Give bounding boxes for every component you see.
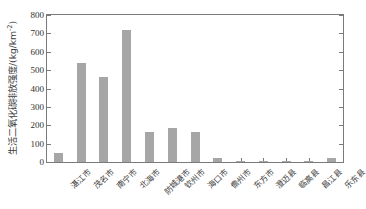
y-axis-tick-mark (47, 125, 51, 126)
bar (191, 132, 200, 162)
y-axis-tick-mark (47, 162, 51, 163)
bar (327, 158, 336, 162)
y-axis-tick-mark (339, 52, 343, 53)
y-axis-title-text: 生活二氧化碳排放强度/(kg/km-2) (5, 21, 19, 155)
bar (259, 161, 268, 162)
x-axis-tick-label: 乐东县 (342, 166, 366, 191)
y-axis-tick-mark (47, 70, 51, 71)
y-axis-tick-label: 800 (31, 10, 45, 20)
y-axis-tick-mark (47, 52, 51, 53)
y-axis-tick-mark (339, 125, 343, 126)
y-axis-tick-label: 500 (31, 65, 45, 75)
y-axis-tick-mark (339, 107, 343, 108)
bar (145, 132, 154, 162)
y-axis-title-superscript: -2 (6, 24, 14, 30)
y-axis-tick-label: 100 (31, 139, 45, 149)
y-axis-tick-mark (339, 33, 343, 34)
y-axis-tick-mark (339, 89, 343, 90)
y-axis-title: 生活二氧化碳排放强度/(kg/km-2) (0, 0, 24, 175)
x-axis-tick-label: 临高县 (296, 166, 321, 191)
bar (282, 161, 291, 162)
bar (77, 63, 86, 162)
y-axis-tick-mark (339, 162, 343, 163)
x-axis-tick-label: 澄迈县 (273, 166, 298, 191)
y-axis-tick-mark (47, 144, 51, 145)
y-axis-title-main: 生活二氧化碳排放强度/(kg/km (7, 30, 18, 154)
y-axis-tick-mark (339, 70, 343, 71)
y-axis-tick-mark (47, 15, 51, 16)
bar (99, 77, 108, 162)
bar (236, 161, 245, 162)
y-axis-tick-label: 300 (31, 102, 45, 112)
bar (168, 128, 177, 162)
bar (304, 161, 313, 162)
x-axis-tick-label: 南宁市 (114, 166, 139, 191)
bar (213, 158, 222, 162)
x-axis-labels: 湛江市茂名市南宁市北海市防城港市钦州市海口市儋州市东方市澄迈县临高县昌江县乐东县 (46, 164, 344, 209)
x-axis-tick-label: 海口市 (205, 166, 230, 191)
bar (122, 30, 131, 162)
y-axis-tick-label: 0 (40, 157, 45, 167)
y-axis-tick-mark (47, 89, 51, 90)
bar (54, 153, 63, 162)
x-axis-tick-label: 茂名市 (91, 166, 116, 191)
y-axis-tick-label: 600 (31, 47, 45, 57)
x-axis-tick-label: 东方市 (251, 166, 276, 191)
y-axis-tick-label: 700 (31, 28, 45, 38)
y-axis-tick-label: 400 (31, 84, 45, 94)
x-axis-tick-label: 北海市 (137, 166, 162, 191)
y-axis-tick-mark (47, 33, 51, 34)
y-axis-tick-mark (47, 107, 51, 108)
x-axis-tick-label: 儋州市 (228, 166, 253, 191)
y-axis-tick-label: 200 (31, 120, 45, 130)
x-axis-tick-label: 湛江市 (68, 166, 93, 191)
x-axis-tick-label: 昌江县 (319, 166, 344, 191)
y-axis-tick-mark (339, 15, 343, 16)
y-axis-tick-mark (339, 144, 343, 145)
plot-area: 0100200300400500600700800 (46, 14, 344, 163)
